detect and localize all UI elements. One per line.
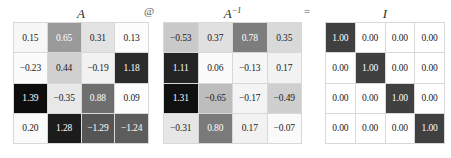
matrix-cell: 0.09 (115, 84, 148, 113)
matrix-block-a: A 0.150.650.310.13−0.230.44−0.191.181.39… (13, 0, 149, 144)
matrix-cell: −1.24 (115, 114, 148, 143)
matrix-cell: 0.00 (326, 114, 355, 143)
matrix-cell: 0.37 (199, 23, 233, 52)
matrix-cell: 0.17 (233, 114, 267, 143)
matrix-cell: 0.00 (326, 53, 355, 82)
matrix-cell: 0.44 (48, 53, 81, 82)
matrix-cell: 0.31 (82, 23, 115, 52)
matrix-block-a-inverse: A−1 −0.530.370.780.351.110.06−0.130.171.… (163, 0, 302, 144)
matrix-cell: 1.00 (415, 114, 444, 143)
matrix-label-a-inverse-superscript: −1 (232, 6, 241, 15)
matrix-cell: 1.28 (48, 114, 81, 143)
matrix-cell: −0.49 (268, 84, 302, 113)
matrix-cell: 1.39 (14, 84, 47, 113)
matrix-cell: 1.00 (326, 23, 355, 52)
matrix-label-a: A (13, 0, 149, 22)
matrix-cell: 0.65 (48, 23, 81, 52)
matrix-cell: −0.35 (48, 84, 81, 113)
matrix-cell: 0.88 (82, 84, 115, 113)
matrix-cell: 0.00 (326, 84, 355, 113)
matrix-cell: −0.13 (233, 53, 267, 82)
matrix-cell: 1.31 (164, 84, 198, 113)
matrix-cell: 0.35 (268, 23, 302, 52)
matrix-cell: 0.00 (415, 84, 444, 113)
matrix-cell: −0.17 (233, 84, 267, 113)
matrix-cell: 1.00 (386, 84, 415, 113)
matrix-cell: −0.53 (164, 23, 198, 52)
matrix-cell: 0.15 (14, 23, 47, 52)
matrix-grid-a-inverse: −0.530.370.780.351.110.06−0.130.171.31−0… (163, 22, 302, 144)
matrix-label-a-text: A (77, 6, 85, 21)
matrix-cell: 0.00 (415, 23, 444, 52)
matrix-cell: −0.23 (14, 53, 47, 82)
matrix-cell: 0.00 (356, 23, 385, 52)
matrix-label-identity-text: I (383, 6, 387, 21)
matrix-cell: 0.80 (199, 114, 233, 143)
matmul-operator: @ (138, 0, 160, 22)
equals-operator: = (296, 0, 318, 22)
matrix-label-identity: I (325, 0, 445, 22)
matrix-cell: −0.07 (268, 114, 302, 143)
matrix-cell: 0.00 (386, 114, 415, 143)
matrix-cell: 0.00 (386, 23, 415, 52)
matrix-grid-a: 0.150.650.310.13−0.230.44−0.191.181.39−0… (13, 22, 149, 144)
matrix-label-a-inverse: A−1 (163, 0, 302, 22)
matrix-cell: 0.78 (233, 23, 267, 52)
matrix-block-identity: I 1.000.000.000.000.001.000.000.000.000.… (325, 0, 445, 144)
matrix-cell: 1.18 (115, 53, 148, 82)
matrix-cell: 0.00 (386, 53, 415, 82)
matrix-cell: 0.00 (356, 114, 385, 143)
matrix-cell: 1.11 (164, 53, 198, 82)
matrix-cell: 0.17 (268, 53, 302, 82)
matrix-cell: 0.06 (199, 53, 233, 82)
matrix-cell: 0.00 (356, 84, 385, 113)
matrix-cell: 0.00 (415, 53, 444, 82)
matrix-label-a-inverse-text: A (224, 6, 232, 21)
matrix-cell: −0.31 (164, 114, 198, 143)
matrix-grid-identity: 1.000.000.000.000.001.000.000.000.000.00… (325, 22, 445, 144)
matrix-cell: 0.13 (115, 23, 148, 52)
matrix-cell: 1.00 (356, 53, 385, 82)
matrix-cell: 0.20 (14, 114, 47, 143)
matrix-cell: −0.65 (199, 84, 233, 113)
matrix-cell: −1.29 (82, 114, 115, 143)
matrix-cell: −0.19 (82, 53, 115, 82)
